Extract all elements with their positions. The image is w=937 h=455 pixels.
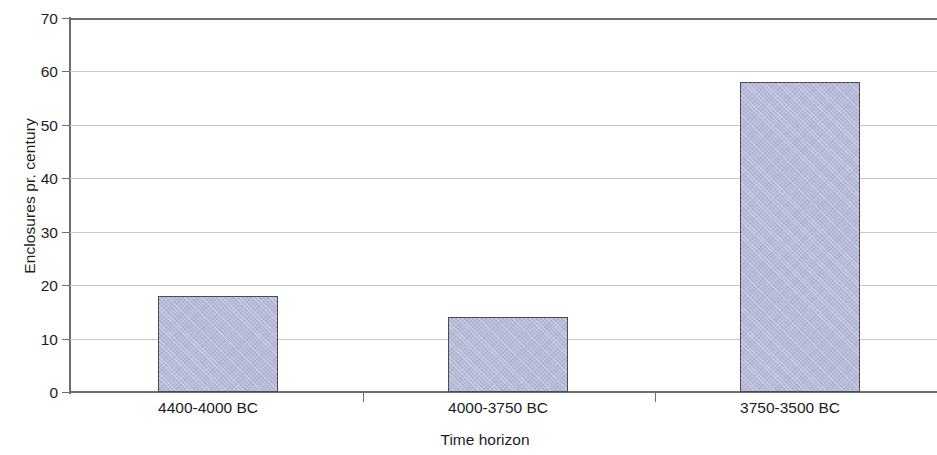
x-tick-label-2: 3750-3500 BC <box>680 398 900 418</box>
y-tick-label: 0 <box>2 385 58 401</box>
bar-2[interactable] <box>740 82 860 392</box>
bar-chart: Enclosures pr. century 70 60 50 40 30 20… <box>0 0 937 455</box>
y-tick-label: 30 <box>2 225 58 241</box>
y-axis-tick-labels: 70 60 50 40 30 20 10 0 <box>0 0 58 455</box>
y-tick-label: 60 <box>2 64 58 80</box>
gridline-70 <box>70 18 937 20</box>
x-tick-label-0: 4400-4000 BC <box>98 398 318 418</box>
x-tick-mark <box>655 393 656 402</box>
x-axis-title: Time horizon <box>70 430 900 450</box>
gridline-60 <box>70 71 937 72</box>
y-tick-label: 20 <box>2 278 58 294</box>
bar-1[interactable] <box>448 317 568 392</box>
y-tick-label: 50 <box>2 118 58 134</box>
x-tick-mark <box>363 393 364 402</box>
y-tick-label: 70 <box>2 11 58 27</box>
x-tick-label-1: 4000-3750 BC <box>388 398 608 418</box>
bar-0[interactable] <box>158 296 278 392</box>
y-tick-label: 40 <box>2 171 58 187</box>
y-tick-label: 10 <box>2 332 58 348</box>
plot-area <box>70 18 937 392</box>
